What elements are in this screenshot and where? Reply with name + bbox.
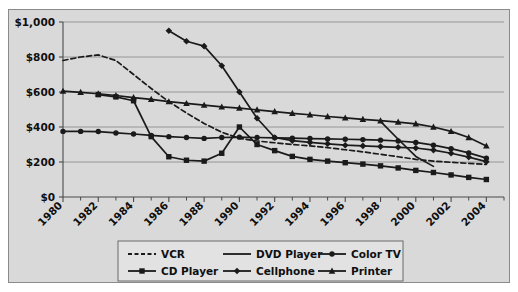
data-point <box>184 135 189 140</box>
legend-label: Printer <box>351 265 393 277</box>
y-tick-label: $800 <box>26 51 55 63</box>
x-tick-label: 1996 <box>317 199 346 228</box>
data-point <box>307 157 312 162</box>
data-point <box>60 129 65 134</box>
data-point <box>78 129 83 134</box>
data-point <box>254 142 259 147</box>
legend-swatch-marker <box>329 251 334 256</box>
y-tick-labels: $0$200$400$600$800$1,000 <box>14 16 55 203</box>
data-point <box>413 140 418 145</box>
x-tick-label: 1994 <box>282 199 311 228</box>
data-point <box>395 144 402 151</box>
y-axis <box>59 22 63 197</box>
y-tick-label: $1,000 <box>14 16 55 28</box>
x-tick-label: 1998 <box>353 199 382 228</box>
legend-label: Cellphone <box>256 265 315 277</box>
x-tick-label: 1982 <box>71 199 100 228</box>
line-chart-plot: $0$200$400$600$800$1,000 198019821984198… <box>0 0 518 292</box>
data-series-group <box>60 27 490 182</box>
series-color-tv <box>60 129 489 161</box>
data-point <box>219 135 224 140</box>
legend-label: CD Player <box>161 265 219 277</box>
legend-label: Color TV <box>351 248 402 260</box>
data-point <box>378 163 383 168</box>
data-point <box>378 137 383 142</box>
data-point <box>431 170 436 175</box>
x-axis <box>63 197 504 202</box>
legend-label: VCR <box>161 248 185 260</box>
data-point <box>272 148 277 153</box>
data-point <box>307 139 314 146</box>
data-point <box>290 154 295 159</box>
data-point <box>360 161 365 166</box>
data-point <box>360 143 367 150</box>
x-tick-labels: 1980198219841986198819901992199419961998… <box>35 199 488 228</box>
x-tick-label: 2000 <box>388 199 417 228</box>
data-point <box>413 168 418 173</box>
x-tick-label: 1986 <box>141 199 170 228</box>
y-tick-label: $600 <box>26 86 55 98</box>
data-point <box>395 138 400 143</box>
data-point <box>342 142 349 149</box>
data-point <box>201 136 206 141</box>
x-tick-label: 2002 <box>423 199 452 228</box>
data-point <box>219 151 224 156</box>
grid-lines <box>63 22 504 162</box>
data-point <box>377 143 384 150</box>
data-point <box>166 154 171 159</box>
data-point <box>413 145 420 152</box>
y-tick-label: $200 <box>26 156 55 168</box>
data-point <box>448 150 455 157</box>
x-tick-label: 1988 <box>176 199 205 228</box>
x-tick-label: 2004 <box>459 199 488 228</box>
data-point <box>466 175 471 180</box>
x-tick-label: 1980 <box>35 199 64 228</box>
data-point <box>96 129 101 134</box>
y-tick-label: $400 <box>26 121 55 133</box>
data-point <box>430 147 437 154</box>
data-point <box>343 137 348 142</box>
data-point <box>448 172 453 177</box>
data-point <box>343 160 348 165</box>
series-cellphone <box>166 27 490 165</box>
data-point <box>395 165 400 170</box>
data-point <box>184 158 189 163</box>
legend-swatch-marker <box>139 268 144 273</box>
data-point <box>149 134 154 139</box>
x-tick-label: 1990 <box>212 199 241 228</box>
data-point <box>113 130 118 135</box>
data-point <box>131 131 136 136</box>
data-point <box>325 158 330 163</box>
data-point <box>465 154 472 161</box>
data-point <box>166 134 171 139</box>
x-tick-label: 1984 <box>106 199 135 228</box>
data-point <box>324 141 331 148</box>
chart-legend: VCRDVD PlayerColor TVCD PlayerCellphoneP… <box>118 241 403 281</box>
chart-figure: $0$200$400$600$800$1,000 198019821984198… <box>0 0 518 292</box>
data-point <box>237 134 242 139</box>
data-point <box>254 135 259 140</box>
data-point <box>484 177 489 182</box>
data-point <box>237 124 242 129</box>
x-tick-label: 1992 <box>247 199 276 228</box>
data-point <box>360 137 365 142</box>
data-point <box>201 158 206 163</box>
legend-label: DVD Player <box>256 248 323 260</box>
